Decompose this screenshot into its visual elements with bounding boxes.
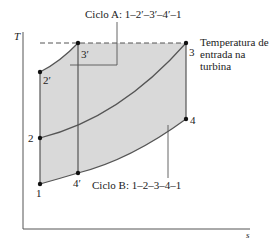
label-1: 1 — [36, 187, 42, 199]
state-point-1 — [38, 182, 42, 186]
label-4: 4 — [190, 114, 196, 126]
state-point-2 — [38, 136, 42, 140]
ts-diagram: T s 1 2 2′ 3′ 3 4 4′ Ciclo A: 1–2′–3′–4′… — [0, 0, 280, 240]
cycle-b-label: Ciclo B: 1–2–3–4–1 — [92, 179, 181, 191]
cycle-a-label: Ciclo A: 1–2′–3′–4′–1 — [85, 8, 181, 20]
turbine-inlet-label-line3: turbina — [200, 60, 231, 72]
state-point-3p — [76, 41, 80, 45]
label-2: 2 — [28, 132, 34, 144]
label-3: 3 — [189, 46, 195, 58]
state-point-4 — [184, 117, 188, 121]
y-axis-label: T — [14, 30, 21, 42]
label-4p: 4′ — [73, 177, 81, 189]
turbine-inlet-label-line1: Temperatura de — [200, 36, 269, 48]
label-2p: 2′ — [43, 74, 51, 86]
cycle-area — [40, 43, 186, 184]
state-point-2p — [38, 70, 42, 74]
state-point-4p — [76, 171, 80, 175]
x-axis-label: s — [246, 230, 250, 240]
turbine-inlet-label-line2: entrada na — [200, 48, 246, 60]
state-point-3 — [184, 41, 188, 45]
label-3p: 3′ — [81, 48, 89, 60]
